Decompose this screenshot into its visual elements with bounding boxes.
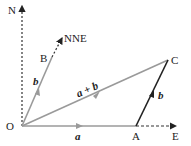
label-east: E [172, 130, 179, 142]
label-B: B [40, 52, 47, 64]
label-vector-a: a [75, 130, 81, 142]
label-nne: NNE [64, 32, 87, 44]
label-O: O [6, 120, 14, 132]
label-C: C [171, 54, 178, 66]
label-A: A [132, 130, 140, 142]
vector-diagram: O A B C N E NNE a b a + b b [0, 0, 191, 146]
vector-a-plus-b [22, 60, 168, 126]
nne-direction [52, 38, 62, 57]
label-vector-b-translated: b [158, 89, 164, 101]
vector-a-arrow-icon [76, 123, 83, 129]
label-north: N [8, 4, 16, 16]
label-vector-b: b [33, 75, 39, 87]
